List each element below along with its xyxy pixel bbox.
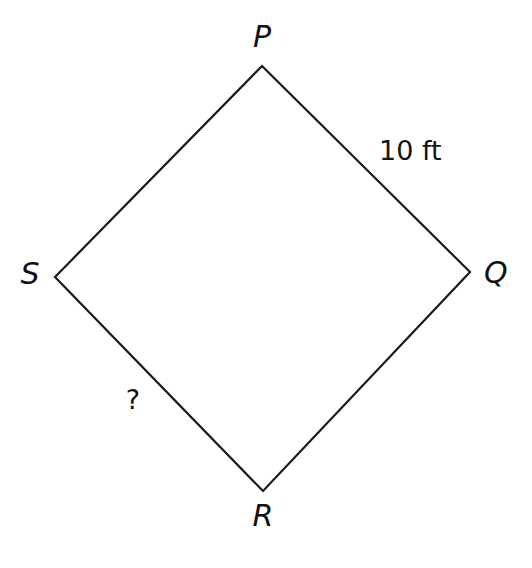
vertex-label-r: R bbox=[253, 501, 274, 531]
vertex-label-q: Q bbox=[484, 258, 508, 288]
side-length-label-sr-unknown: ? bbox=[126, 386, 140, 413]
quadrilateral-outline bbox=[55, 66, 470, 491]
quadrilateral-shape bbox=[0, 0, 532, 568]
vertex-label-p: P bbox=[253, 22, 271, 52]
diagram-canvas: P Q R S 10 ft ? bbox=[0, 0, 532, 568]
vertex-label-s: S bbox=[20, 259, 39, 289]
side-length-label-pq: 10 ft bbox=[379, 137, 442, 164]
